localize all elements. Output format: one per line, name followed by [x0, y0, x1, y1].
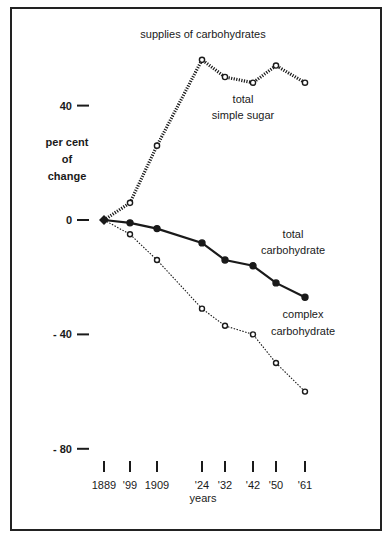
x-tick: 1889	[92, 461, 116, 491]
chart-title: supplies of carbohydrates	[140, 28, 266, 40]
x-tick-label: '61	[298, 479, 312, 491]
y-axis-label: per cent of change	[46, 136, 89, 182]
origin-marker	[99, 215, 109, 225]
x-tick: '32	[218, 461, 232, 491]
series-total-simple-sugar	[104, 57, 308, 220]
series-layer	[99, 57, 308, 394]
x-tick-label: '50	[269, 479, 283, 491]
y-tick: 0	[66, 214, 89, 226]
data-point	[222, 257, 228, 263]
series-label-complex-carbohydrate: complex carbohydrate	[271, 308, 335, 337]
x-tick: '50	[269, 461, 283, 491]
data-point	[250, 80, 255, 85]
data-point	[155, 258, 160, 263]
data-point	[303, 389, 308, 394]
data-point	[222, 74, 227, 79]
data-point	[250, 263, 256, 269]
data-point	[273, 63, 278, 68]
x-tick: 1909	[145, 461, 169, 491]
data-point	[199, 240, 205, 246]
series-label-simple-sugar: total simple sugar	[212, 93, 275, 121]
y-axis-label-line: change	[48, 170, 87, 182]
series-label-line: total	[233, 93, 254, 105]
y-tick-label: - 40	[53, 328, 72, 340]
chart: supplies of carbohydrates per cent of ch…	[0, 0, 389, 541]
series-label-line: carbohydrate	[261, 244, 325, 256]
data-point	[302, 80, 307, 85]
series-label-line: complex	[283, 308, 324, 320]
data-point	[200, 306, 205, 311]
x-tick-label: 1909	[145, 479, 169, 491]
data-point	[274, 361, 279, 366]
data-point	[154, 226, 160, 232]
series-total-carbohydrate	[104, 220, 308, 300]
x-tick: '24	[195, 461, 209, 491]
data-point	[273, 280, 279, 286]
series-label-line: total	[283, 228, 304, 240]
data-point	[127, 200, 132, 205]
y-axis-label-line: of	[62, 153, 73, 165]
y-tick-label: 0	[66, 214, 72, 226]
y-tick: - 40	[53, 328, 89, 340]
series-line	[104, 60, 305, 220]
y-tick: 40	[60, 100, 89, 112]
data-point	[199, 57, 204, 62]
series-label-line: simple sugar	[212, 109, 275, 121]
x-tick-label: '32	[218, 479, 232, 491]
data-point	[302, 294, 308, 300]
x-tick-label: '42	[246, 479, 260, 491]
y-tick-label: - 80	[53, 443, 72, 455]
x-tick: '42	[246, 461, 260, 491]
series-label-line: carbohydrate	[271, 325, 335, 337]
x-tick-label: 1889	[92, 479, 116, 491]
x-axis-ticks: 1889'991909'24'32'42'50'61	[92, 461, 312, 491]
x-tick-label: '24	[195, 479, 209, 491]
x-tick: '99	[123, 461, 137, 491]
data-point	[223, 323, 228, 328]
data-point	[128, 232, 133, 237]
x-tick-label: '99	[123, 479, 137, 491]
x-axis-label: years	[190, 492, 217, 504]
x-tick: '61	[298, 461, 312, 491]
y-tick-label: 40	[60, 100, 72, 112]
y-tick: - 80	[53, 443, 89, 455]
data-point	[154, 143, 159, 148]
data-point	[127, 220, 133, 226]
series-label-total-carbohydrate: total carbohydrate	[261, 228, 325, 256]
y-axis-label-line: per cent	[46, 136, 89, 148]
data-point	[251, 332, 256, 337]
